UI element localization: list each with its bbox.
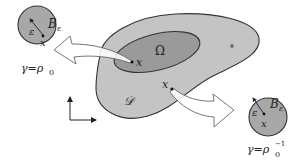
point-x-omega xyxy=(130,60,133,63)
right-ball-epsilon: ε xyxy=(252,107,257,118)
left-caption-sub: 0 xyxy=(49,68,54,77)
right-ball-name: B xyxy=(269,97,279,111)
left-ball-name: B xyxy=(47,17,57,31)
label-x-domain: x xyxy=(162,78,169,91)
small-dot xyxy=(230,44,233,48)
hollow-arrow-right xyxy=(170,88,234,127)
left-ball-epsilon: ε xyxy=(29,26,34,37)
point-x-domain xyxy=(170,87,173,90)
left-caption: γ=ρ xyxy=(21,62,44,75)
diagram-canvas: x Ω x 𝒟 ε x B ε γ=ρ 0 ε x B ε γ=ρ 0 −1 xyxy=(0,0,304,164)
right-caption: γ=ρ xyxy=(247,143,270,156)
ball-right: ε x B ε xyxy=(249,97,287,136)
left-ball-center-x: x xyxy=(40,37,46,48)
coordinate-axes-icon xyxy=(70,97,96,120)
right-ball-sub: ε xyxy=(279,104,283,113)
label-omega: Ω xyxy=(155,44,165,58)
right-caption-sup: −1 xyxy=(275,140,285,148)
ball-left: ε x B ε xyxy=(18,6,61,48)
label-x-omega: x xyxy=(136,56,143,69)
right-ball-center-x: x xyxy=(261,118,267,129)
left-ball-sub: ε xyxy=(57,24,61,33)
right-caption-sub: 0 xyxy=(275,150,280,159)
